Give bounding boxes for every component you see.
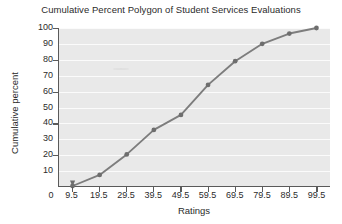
x-tick-mark xyxy=(289,187,290,192)
plot-area xyxy=(58,28,330,187)
y-tick-mark xyxy=(53,28,58,29)
y-tick-mark xyxy=(53,60,58,61)
y-tick-label: 10 xyxy=(23,165,53,175)
y-tick-label: 70 xyxy=(23,70,53,80)
y-axis-label: Cumulative percent xyxy=(9,33,23,193)
series-polyline xyxy=(73,28,317,186)
y-tick-label: 30 xyxy=(23,133,53,143)
y-tick-label: 50 xyxy=(23,102,53,112)
data-point-marker xyxy=(260,41,265,46)
x-tick-mark xyxy=(72,187,73,192)
y-tick-label: 100 xyxy=(23,22,53,32)
y-tick-label: 60 xyxy=(23,86,53,96)
data-point-marker xyxy=(206,82,211,87)
y-tick-label: 90 xyxy=(23,38,53,48)
x-tick-mark xyxy=(99,187,100,192)
data-point-marker xyxy=(124,152,129,157)
y-tick-mark xyxy=(53,123,58,124)
y-tick-label: 80 xyxy=(23,54,53,64)
x-tick-mark xyxy=(126,187,127,192)
y-tick-mark xyxy=(53,92,58,93)
y-tick-label: 20 xyxy=(23,149,53,159)
data-point-marker xyxy=(233,59,238,64)
scan-artifact xyxy=(113,68,129,70)
series-line xyxy=(59,28,330,186)
y-tick-label: 40 xyxy=(23,117,53,127)
data-point-marker xyxy=(151,128,156,133)
data-point-marker xyxy=(179,113,184,118)
chart-title: Cumulative Percent Polygon of Student Se… xyxy=(0,4,342,15)
x-tick-mark xyxy=(235,187,236,192)
x-tick-mark xyxy=(262,187,263,192)
x-tick-mark xyxy=(180,187,181,192)
cumulative-percent-polygon-chart: Cumulative Percent Polygon of Student Se… xyxy=(0,0,342,224)
y-tick-mark xyxy=(53,155,58,156)
x-axis-label: Ratings xyxy=(58,205,330,216)
data-point-marker xyxy=(97,173,102,178)
x-tick-mark xyxy=(208,187,209,192)
x-tick-mark xyxy=(153,187,154,192)
data-point-marker xyxy=(314,26,319,31)
x-tick-mark xyxy=(316,187,317,192)
data-point-marker xyxy=(287,31,292,36)
